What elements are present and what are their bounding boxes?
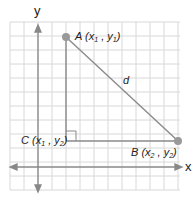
right-angle-marker (66, 131, 76, 141)
point-a-label: A (x1 , y1) (74, 30, 121, 43)
coordinate-diagram: y x A (x1 , y1) C (x1 , y2) B (x2 , y2) … (0, 0, 195, 200)
distance-label: d (123, 74, 130, 86)
y-axis-label: y (34, 3, 41, 18)
grid (10, 22, 180, 190)
point-c-label: C (x1 , y2) (21, 134, 68, 147)
x-axis (10, 164, 182, 170)
point-b (174, 137, 182, 145)
x-axis-label: x (185, 159, 192, 174)
point-a (62, 33, 70, 41)
